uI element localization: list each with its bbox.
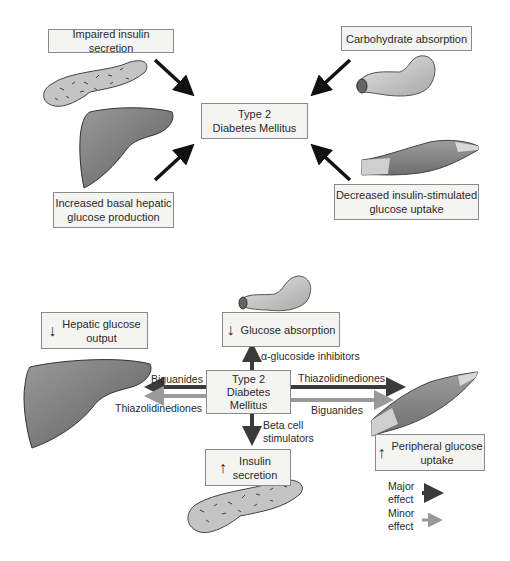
factor-label-line1: Increased basal hepatic [55, 196, 171, 210]
center-label-line3: Mellitus [230, 399, 267, 412]
type2-diabetes-center-box: Type 2 Diabetes Mellitus [201, 103, 308, 139]
drug-label-thiazolidinediones-left: Thiazolidinediones [115, 402, 202, 415]
factor-label-line2: glucose production [67, 210, 159, 224]
pancreas-illustration-top [44, 61, 147, 107]
intestine-illustration-top [357, 56, 435, 96]
center-label-line2: Diabetes Mellitus [213, 121, 297, 135]
hepatic-glucose-output-box: ↓ Hepatic glucose output [41, 312, 148, 349]
center-label-line2: Diabetes [227, 386, 270, 399]
muscle-illustration-bottom [372, 372, 478, 436]
legend-minor-label-line2: effect [388, 520, 414, 533]
effect-label-line1: Insulin [233, 454, 278, 468]
peripheral-glucose-uptake-box: ↑ Peripheral glucose uptake [375, 434, 485, 471]
impaired-insulin-secretion-box: Impaired insulin secretion [48, 29, 174, 53]
factor-label: Impaired insulin secretion [49, 27, 173, 55]
effect-label-line2: output [62, 331, 140, 345]
muscle-illustration-top [362, 140, 478, 175]
legend-minor-label-line1: Minor [388, 507, 414, 520]
intestine-illustration-bottom [239, 276, 311, 311]
increased-hepatic-glucose-box: Increased basal hepatic glucose producti… [53, 192, 174, 228]
center-label-line1: Type 2 [232, 373, 265, 386]
type2-diabetes-center-box-bottom: Type 2 Diabetes Mellitus [206, 370, 291, 414]
legend-major-label-line1: Major [388, 480, 414, 493]
effect-label-line1: Hepatic glucose [62, 317, 140, 331]
drug-label-beta-cell-line1: Beta cell [263, 419, 303, 432]
effect-label-line2: secretion [233, 468, 278, 482]
insulin-secretion-box: ↑ Insulin secretion [205, 449, 291, 486]
drug-label-biguanides-right: Biguanides [311, 404, 363, 417]
down-arrow-icon: ↓ [227, 323, 235, 337]
decreased-glucose-uptake-box: Decreased insulin-stimulated glucose upt… [334, 184, 479, 220]
glucose-absorption-box: ↓ Glucose absorption [222, 312, 340, 347]
up-arrow-icon: ↑ [219, 461, 227, 475]
drug-label-thiazolidinediones-right: Thiazolidinediones [298, 372, 385, 385]
legend-major-label-line2: effect [388, 493, 414, 506]
effect-label: Glucose absorption [241, 323, 336, 337]
factor-label: Carbohydrate absorption [346, 32, 467, 46]
down-arrow-icon: ↓ [48, 324, 56, 338]
pancreas-illustration-bottom [188, 480, 302, 533]
effect-label-line1: Peripheral glucose [391, 439, 482, 453]
center-label-line1: Type 2 [238, 107, 271, 121]
drug-label-alpha-glucoside: α-glucoside inhibitors [261, 350, 360, 363]
drug-label-beta-cell-line2: stimulators [263, 432, 314, 445]
up-arrow-icon: ↑ [377, 446, 385, 460]
effect-label-line2: uptake [391, 453, 482, 467]
carbohydrate-absorption-box: Carbohydrate absorption [341, 26, 472, 51]
drug-label-biguanides-left: Biguanides [151, 373, 203, 386]
factor-label-line1: Decreased insulin-stimulated [336, 188, 477, 202]
factor-label-line2: glucose uptake [370, 202, 444, 216]
